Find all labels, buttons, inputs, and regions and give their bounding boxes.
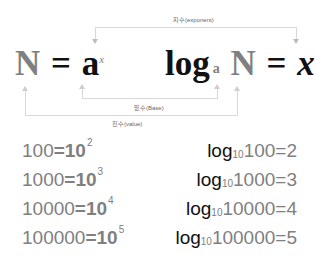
value-connector-right — [237, 91, 238, 116]
example-power: =10 — [64, 169, 96, 190]
eq-left-N: N — [15, 44, 40, 83]
example-power: =10 — [54, 140, 86, 161]
example-value: 10000 — [222, 198, 275, 219]
example-value: 100000 — [22, 227, 85, 248]
example-base: 10 — [222, 178, 233, 189]
eq-left-exponent-x: x — [99, 53, 104, 65]
base-label: 밑수(Base) — [134, 103, 164, 112]
example-result: =2 — [275, 140, 297, 161]
example-right-row: log10100=2 — [207, 141, 297, 161]
eq-left-equals: = — [51, 44, 71, 83]
example-value: 100000 — [212, 227, 275, 248]
example-base: 10 — [211, 207, 222, 218]
example-result: =3 — [275, 169, 297, 190]
example-value: 1000 — [233, 169, 275, 190]
equation-exponential: N = ax — [15, 46, 104, 81]
example-left-row: 10000=104 — [22, 199, 114, 219]
example-log: log — [207, 140, 232, 161]
eq-right-x: x — [297, 44, 315, 83]
eq-left-a: a — [82, 44, 100, 83]
example-result: =5 — [275, 227, 297, 248]
example-right-row: log10100000=5 — [175, 228, 297, 248]
example-right-row: log1010000=4 — [186, 199, 297, 219]
eq-right-N: N — [230, 44, 255, 83]
example-log: log — [186, 198, 211, 219]
example-base: 10 — [233, 149, 244, 160]
example-log: log — [197, 169, 222, 190]
example-exponent: 3 — [98, 166, 104, 177]
base-connector-bottom — [82, 98, 218, 99]
example-exponent: 4 — [108, 195, 114, 206]
exponent-connector-right — [296, 27, 297, 39]
example-power: =10 — [85, 227, 117, 248]
example-right-row: log101000=3 — [197, 170, 297, 190]
value-label: 진수(value) — [112, 119, 142, 128]
example-power: =10 — [75, 198, 107, 219]
eq-right-base-a: a — [213, 61, 220, 76]
exponent-connector-top — [95, 27, 297, 28]
eq-right-log: log — [165, 44, 210, 83]
value-connector-bottom — [25, 115, 238, 116]
value-connector-left — [25, 91, 26, 116]
example-result: =4 — [275, 198, 297, 219]
example-value: 100 — [22, 140, 54, 161]
example-left-row: 1000=103 — [22, 170, 103, 190]
example-value: 100 — [244, 140, 276, 161]
exponent-connector-left — [95, 27, 96, 39]
example-value: 10000 — [22, 198, 75, 219]
exponent-label: 지수(exponent) — [173, 15, 214, 24]
example-left-row: 100000=105 — [22, 228, 124, 248]
example-exponent: 5 — [119, 224, 125, 235]
example-value: 1000 — [22, 169, 64, 190]
example-exponent: 2 — [87, 137, 93, 148]
equation-logarithmic: loga N = x — [165, 46, 315, 81]
example-base: 10 — [201, 236, 212, 247]
example-log: log — [175, 227, 200, 248]
eq-right-equals: = — [267, 44, 287, 83]
example-left-row: 100=102 — [22, 141, 93, 161]
